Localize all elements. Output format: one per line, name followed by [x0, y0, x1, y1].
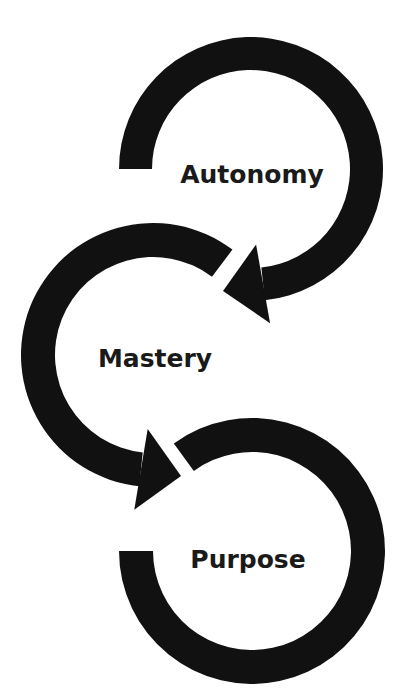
ring-autonomy: Autonomy: [119, 37, 383, 323]
ring-mastery: Mastery: [21, 223, 232, 510]
label-purpose: Purpose: [190, 545, 305, 574]
autonomy-mastery-purpose-diagram: Autonomy Mastery Purpose: [0, 0, 402, 699]
label-mastery: Mastery: [98, 344, 212, 373]
mastery-arrowhead-icon: [134, 429, 181, 510]
label-autonomy: Autonomy: [180, 160, 324, 189]
autonomy-arrowhead-icon: [223, 244, 270, 323]
